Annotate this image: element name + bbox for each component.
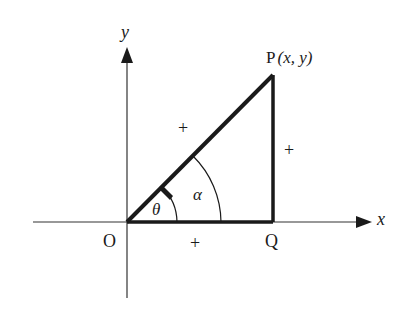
y-axis-label: y bbox=[121, 23, 129, 41]
x-axis-label: x bbox=[377, 210, 385, 228]
theta-label: θ bbox=[152, 201, 160, 218]
theta-arrow-icon bbox=[160, 186, 173, 200]
hypotenuse-sign: + bbox=[178, 119, 188, 137]
point-p-name: P bbox=[266, 48, 275, 67]
alpha-label: α bbox=[193, 186, 202, 203]
point-q-label: Q bbox=[265, 232, 278, 250]
vertical-side-sign: + bbox=[284, 141, 294, 159]
x-axis-arrow-icon bbox=[356, 216, 372, 228]
point-p-label: P(x, y) bbox=[266, 49, 312, 66]
y-axis-arrow-icon bbox=[121, 47, 133, 63]
diagram-canvas bbox=[0, 0, 408, 316]
horizontal-side-sign: + bbox=[190, 234, 200, 252]
point-p-coords: (x, y) bbox=[277, 48, 312, 67]
origin-label: O bbox=[103, 232, 116, 250]
